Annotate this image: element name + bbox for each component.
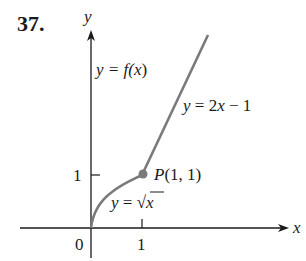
line-label: y = 2x − 1 bbox=[181, 96, 251, 115]
x-tick-label-1: 1 bbox=[137, 235, 146, 254]
graph: 37. y x 1 1 0 y = f(x) y = 2x − 1 P(1, 1… bbox=[0, 0, 306, 261]
problem-number: 37. bbox=[17, 11, 45, 36]
f-label: y = f(x) bbox=[94, 60, 147, 79]
sqrt-label: y = √x bbox=[109, 193, 154, 212]
point-p bbox=[139, 170, 148, 179]
y-tick-label-1: 1 bbox=[73, 166, 82, 185]
origin-label: 0 bbox=[75, 235, 84, 254]
point-label: P(1, 1) bbox=[153, 165, 201, 184]
x-axis-label: x bbox=[292, 218, 301, 237]
y-axis-label: y bbox=[82, 7, 92, 26]
